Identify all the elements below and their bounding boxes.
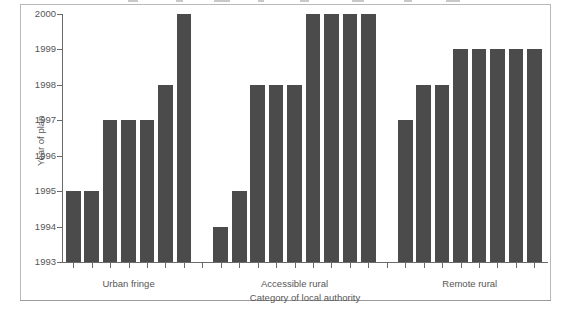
bar — [103, 120, 118, 262]
x-tick — [202, 263, 203, 268]
x-tick — [350, 263, 351, 268]
bar — [213, 227, 228, 262]
figure-bar-chart: Year of plan 199319941995199619971998199… — [0, 0, 562, 318]
bar — [324, 14, 339, 262]
bar — [250, 85, 265, 262]
y-tick-label-1999: 1999 — [35, 44, 56, 54]
x-tick — [331, 263, 332, 268]
x-tick — [239, 263, 240, 268]
bar — [472, 49, 487, 262]
group-label-accessible-rural: Accessible rural — [235, 279, 355, 289]
x-tick — [258, 263, 259, 268]
bar — [232, 191, 247, 262]
bar — [509, 49, 524, 262]
bar — [158, 85, 173, 262]
x-tick — [165, 263, 166, 268]
y-tick-1993 — [57, 262, 62, 263]
bar — [121, 120, 136, 262]
bar — [361, 14, 376, 262]
x-tick — [442, 263, 443, 268]
y-tick-label-1993: 1993 — [35, 257, 56, 267]
group-label-urban-fringe: Urban fringe — [69, 279, 189, 289]
y-tick-label-1997: 1997 — [35, 115, 56, 125]
bar — [84, 191, 99, 262]
x-tick — [497, 263, 498, 268]
x-tick — [295, 263, 296, 268]
x-axis-title: Category of local authority — [185, 293, 425, 303]
x-tick — [516, 263, 517, 268]
scan-artifact-top — [0, 0, 562, 3]
x-tick — [534, 263, 535, 268]
x-tick — [184, 263, 185, 268]
x-tick — [313, 263, 314, 268]
y-axis-tick-labels: 19931994199519961997199819992000 — [0, 14, 56, 264]
x-tick — [276, 263, 277, 268]
x-tick — [129, 263, 130, 268]
bar — [177, 14, 192, 262]
y-tick-label-1998: 1998 — [35, 80, 56, 90]
bar — [490, 49, 505, 262]
plot-area — [62, 14, 552, 262]
x-tick — [424, 263, 425, 268]
bar — [435, 85, 450, 262]
x-tick — [461, 263, 462, 268]
x-tick — [221, 263, 222, 268]
bar — [453, 49, 468, 262]
x-tick — [73, 263, 74, 268]
bar — [398, 120, 413, 262]
bar — [66, 191, 81, 262]
y-tick-label-1995: 1995 — [35, 186, 56, 196]
y-tick-label-2000: 2000 — [35, 9, 56, 19]
bar — [287, 85, 302, 262]
x-tick — [405, 263, 406, 268]
x-tick — [110, 263, 111, 268]
y-tick-label-1996: 1996 — [35, 151, 56, 161]
x-tick — [368, 263, 369, 268]
bar — [416, 85, 431, 262]
y-tick-label-1994: 1994 — [35, 222, 56, 232]
bar — [269, 85, 284, 262]
group-label-remote-rural: Remote rural — [410, 279, 530, 289]
x-axis-line — [62, 262, 548, 263]
bar — [343, 14, 358, 262]
bar — [306, 14, 321, 262]
x-tick — [92, 263, 93, 268]
bar — [527, 49, 542, 262]
x-tick — [387, 263, 388, 268]
bar-series — [62, 14, 552, 262]
x-tick — [147, 263, 148, 268]
bar — [140, 120, 155, 262]
x-tick — [479, 263, 480, 268]
